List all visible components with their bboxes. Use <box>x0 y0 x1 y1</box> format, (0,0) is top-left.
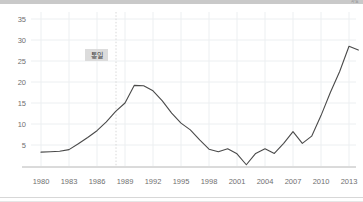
y-tick-5: 5 <box>22 141 26 150</box>
y-gridlines <box>31 19 356 145</box>
x-tick-1995: 1995 <box>173 177 190 186</box>
chart-screenshot: 자료 <box>0 0 363 202</box>
y-tick-10: 10 <box>18 120 26 129</box>
x-tick-1998: 1998 <box>201 177 218 186</box>
x-tick-2010: 2010 <box>313 177 330 186</box>
y-tick-25: 25 <box>18 57 26 66</box>
chart-svg: 35 30 25 20 15 10 5 1980 1983 1986 1989 … <box>0 4 363 198</box>
line-chart: 35 30 25 20 15 10 5 1980 1983 1986 1989 … <box>0 4 363 198</box>
y-tick-15: 15 <box>18 99 26 108</box>
x-tick-1983: 1983 <box>61 177 78 186</box>
y-tick-labels: 35 30 25 20 15 10 5 <box>18 15 26 150</box>
x-tick-1980: 1980 <box>33 177 50 186</box>
bottom-divider-2 <box>0 201 363 202</box>
x-tick-2013: 2013 <box>341 177 358 186</box>
y-tick-20: 20 <box>18 78 26 87</box>
x-tick-1992: 1992 <box>145 177 162 186</box>
x-tick-labels: 1980 1983 1986 1989 1992 1995 1998 2001 … <box>33 177 358 186</box>
annotation-label: 통일 <box>91 51 103 60</box>
x-tick-2007: 2007 <box>285 177 302 186</box>
x-tick-2004: 2004 <box>257 177 274 186</box>
x-tick-1986: 1986 <box>89 177 106 186</box>
x-tick-2001: 2001 <box>229 177 246 186</box>
bottom-divider-1 <box>0 197 363 198</box>
x-tick-1989: 1989 <box>117 177 134 186</box>
y-tick-35: 35 <box>18 15 26 24</box>
unification-annotation: 통일 <box>85 49 108 61</box>
y-tick-30: 30 <box>18 36 26 45</box>
series-line-1 <box>41 46 358 164</box>
